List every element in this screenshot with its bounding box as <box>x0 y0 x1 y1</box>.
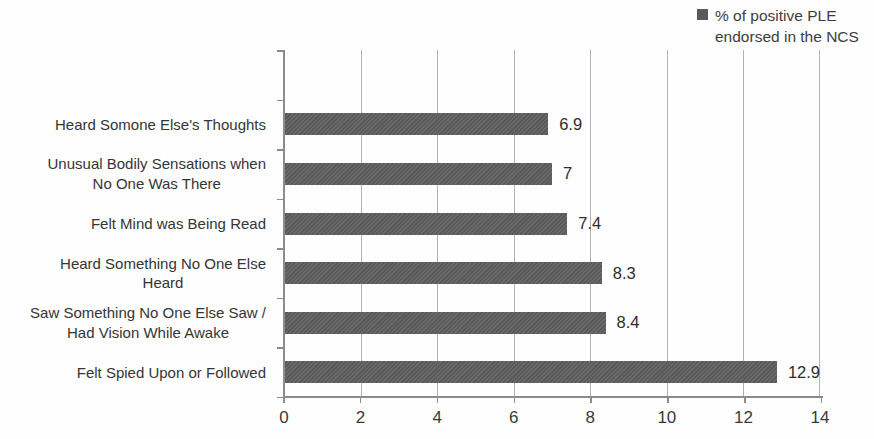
category-label: Heard Somone Else's Thoughts <box>0 100 272 150</box>
value-label: 6.9 <box>559 115 582 134</box>
value-label: 12.9 <box>788 363 820 382</box>
value-label: 8.4 <box>617 313 640 332</box>
category-label: Felt Mind was Being Read <box>0 199 272 249</box>
x-tick-label: 6 <box>509 408 518 428</box>
x-axis-labels: 0 2 4 6 8 10 12 14 <box>284 408 820 432</box>
plot-area: 6.9 7 7.4 8.3 8.4 12.9 <box>284 50 820 397</box>
bar <box>284 361 777 383</box>
legend-label: % of positive PLE endorsed in the NCS <box>715 5 859 47</box>
x-axis-ticks <box>283 398 822 403</box>
x-tick-label: 4 <box>432 408 441 428</box>
x-tick-label: 12 <box>734 408 753 428</box>
legend-marker-icon <box>697 9 708 20</box>
bar-row-spacer <box>284 50 820 100</box>
x-tick-label: 8 <box>586 408 595 428</box>
y-axis-line <box>283 50 285 397</box>
value-label: 8.3 <box>613 264 636 283</box>
bar-rows: 6.9 7 7.4 8.3 8.4 12.9 <box>284 50 820 397</box>
bar-row: 12.9 <box>284 347 820 397</box>
bar-row: 7 <box>284 149 820 199</box>
x-tick-label: 0 <box>279 408 288 428</box>
x-tick-label: 10 <box>657 408 676 428</box>
bar-row: 8.3 <box>284 248 820 298</box>
value-label: 7.4 <box>578 214 601 233</box>
x-tick-label: 2 <box>356 408 365 428</box>
category-label: Saw Something No One Else Saw / Had Visi… <box>0 298 272 348</box>
bar <box>284 312 606 334</box>
bar-row: 8.4 <box>284 298 820 348</box>
x-tick-label: 14 <box>811 408 830 428</box>
category-label: Heard Something No One Else Heard <box>0 248 272 298</box>
bar-row: 6.9 <box>284 100 820 150</box>
category-label: Unusual Bodily Sensations when No One Wa… <box>0 149 272 199</box>
bar <box>284 213 567 235</box>
bar-row: 7.4 <box>284 199 820 249</box>
category-axis: Heard Somone Else's Thoughts Unusual Bod… <box>0 50 272 397</box>
y-axis-ticks <box>277 50 283 398</box>
bar <box>284 262 602 284</box>
value-label: 7 <box>563 164 572 183</box>
bar <box>284 113 548 135</box>
legend: % of positive PLE endorsed in the NCS <box>697 5 859 47</box>
bar <box>284 163 552 185</box>
category-spacer <box>0 50 272 100</box>
category-label: Felt Spied Upon or Followed <box>0 347 272 397</box>
bar-chart: % of positive PLE endorsed in the NCS He… <box>0 0 874 439</box>
